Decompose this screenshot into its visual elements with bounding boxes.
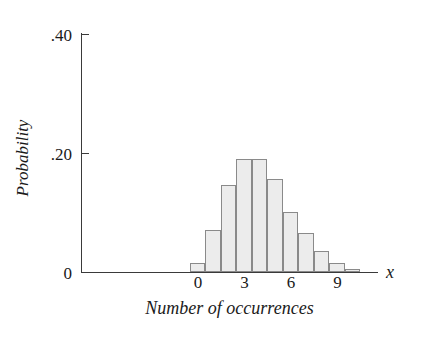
probability-histogram-figure: 0 .20 .40 0 3 6 9 Probability Number of …	[0, 0, 422, 342]
histogram-bar	[329, 263, 345, 272]
histogram-bar	[283, 212, 299, 272]
histogram-bar	[252, 159, 268, 272]
histogram-bar	[314, 251, 330, 272]
x-axis-title: Number of occurrences	[81, 298, 378, 319]
x-variable-label: x	[386, 262, 394, 283]
histogram-bar	[236, 159, 252, 272]
histogram-bars	[0, 0, 422, 342]
histogram-bar	[267, 179, 283, 271]
y-axis-title: Probability	[13, 88, 33, 228]
histogram-bar	[298, 233, 314, 272]
histogram-bar	[190, 263, 206, 272]
histogram-bar	[345, 269, 361, 272]
histogram-bar	[221, 185, 237, 271]
histogram-bar	[205, 230, 221, 272]
